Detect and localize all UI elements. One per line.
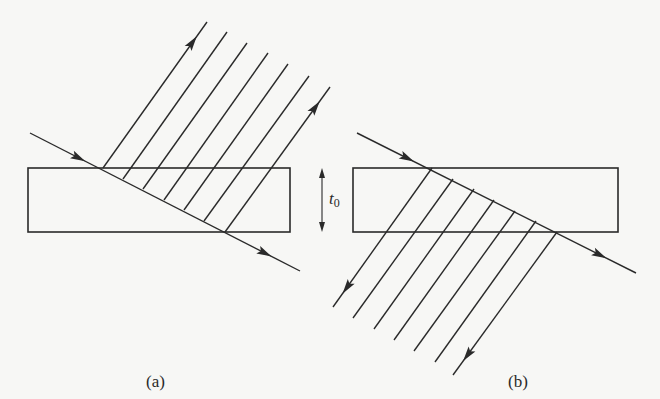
ray-b-6	[435, 221, 536, 362]
ray-arrow-icon	[343, 279, 355, 294]
incident-arrow-icon	[70, 151, 85, 162]
ray-b-2	[353, 179, 453, 318]
ray-a-2	[123, 32, 227, 179]
ray-arrow-icon	[307, 101, 319, 116]
ray-arrow-icon	[463, 346, 475, 361]
ray-b-4	[394, 200, 494, 340]
arrow-down-icon	[319, 222, 325, 232]
panel-b-transmission	[333, 133, 636, 375]
panel-a-reflection	[28, 22, 330, 271]
incident-arrow-icon	[399, 151, 414, 161]
ray-arrow-icon	[185, 36, 197, 51]
thickness-marker	[319, 168, 325, 232]
thickness-label: t0	[329, 190, 340, 209]
slab-a	[28, 168, 290, 232]
panel-b-label: (b)	[508, 373, 528, 390]
ray-a-4	[164, 53, 268, 200]
thickness-subscript: 0	[334, 196, 340, 210]
ray-a-5	[184, 64, 288, 210]
arrow-up-icon	[319, 168, 325, 178]
ray-a-6	[204, 76, 309, 221]
ray-a-3	[143, 43, 247, 189]
ray-b-3	[374, 189, 474, 329]
outgoing-arrow-icon	[591, 248, 606, 258]
incident-ray-b	[357, 133, 636, 273]
outgoing-arrow-icon	[256, 246, 271, 257]
incident-ray-a	[30, 133, 300, 271]
panel-a-label: (a)	[146, 373, 165, 390]
